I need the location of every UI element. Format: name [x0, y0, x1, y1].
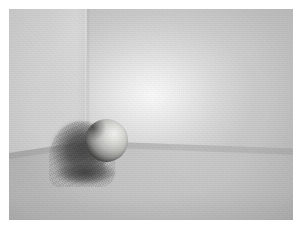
rendered-image: Global illumination render of a matte sp… [9, 9, 293, 220]
sphere-terminator-shading [85, 119, 128, 162]
screenshot-root: Global illumination render of a matte sp… [0, 0, 301, 239]
sphere-object [85, 119, 128, 162]
